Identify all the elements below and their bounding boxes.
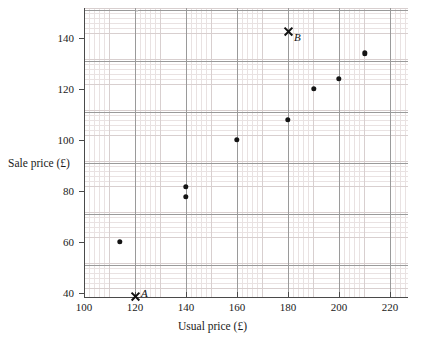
x-tick-140 bbox=[186, 292, 187, 297]
x-tick-label-180: 180 bbox=[268, 302, 308, 313]
x-tick-label-200: 200 bbox=[319, 302, 359, 313]
y-tick-label-140: 140 bbox=[44, 33, 74, 44]
y-tick-80 bbox=[79, 191, 84, 192]
y-tick-120 bbox=[79, 89, 84, 90]
paper-speck bbox=[136, 10, 138, 12]
x-axis-title: Usual price (£) bbox=[0, 320, 425, 332]
y-axis-line bbox=[84, 8, 85, 298]
y-tick-100 bbox=[79, 140, 84, 141]
y-tick-label-100: 100 bbox=[44, 135, 74, 146]
x-tick-160 bbox=[237, 292, 238, 297]
plot-area bbox=[84, 8, 408, 297]
scatter-chart: 140 120 100 80 60 40 100 120 140 160 180… bbox=[0, 0, 425, 340]
marker-label-b: B bbox=[294, 31, 301, 43]
x-tick-label-100: 100 bbox=[64, 302, 104, 313]
x-tick-label-220: 220 bbox=[370, 302, 410, 313]
marker-label-a: A bbox=[141, 287, 148, 299]
y-tick-label-120: 120 bbox=[44, 84, 74, 95]
x-tick-180 bbox=[288, 292, 289, 297]
marker-cross-a bbox=[130, 291, 141, 302]
marker-cross-b bbox=[283, 26, 294, 37]
x-tick-100 bbox=[84, 292, 85, 297]
y-tick-label-40: 40 bbox=[44, 288, 74, 299]
minor-gridlines bbox=[84, 8, 408, 297]
y-tick-60 bbox=[79, 242, 84, 243]
x-tick-label-120: 120 bbox=[115, 302, 155, 313]
y-tick-140 bbox=[79, 38, 84, 39]
x-tick-220 bbox=[390, 292, 391, 297]
y-axis-title: Sale price (£) bbox=[8, 157, 70, 169]
y-tick-label-80: 80 bbox=[44, 186, 74, 197]
mid-gridlines bbox=[84, 8, 408, 297]
x-tick-200 bbox=[339, 292, 340, 297]
x-tick-label-160: 160 bbox=[217, 302, 257, 313]
x-tick-label-140: 140 bbox=[166, 302, 206, 313]
major-gridlines bbox=[84, 8, 408, 297]
y-tick-label-60: 60 bbox=[44, 237, 74, 248]
